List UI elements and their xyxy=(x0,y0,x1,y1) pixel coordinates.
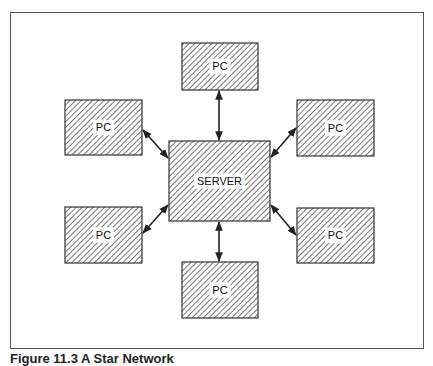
pc-lower-left-box-label: PC xyxy=(96,229,111,241)
link-pc-upper-left-server xyxy=(143,130,168,158)
server-box-label: SERVER xyxy=(197,175,242,187)
pc-bottom-box: PC xyxy=(182,262,258,318)
pc-upper-right-box-label: PC xyxy=(328,122,343,134)
server-box: SERVER xyxy=(169,141,270,221)
network-nodes: SERVERPCPCPCPCPCPC xyxy=(65,43,374,318)
link-pc-lower-right-server xyxy=(271,205,296,235)
pc-lower-left-box: PC xyxy=(65,207,142,263)
pc-lower-right-box-label: PC xyxy=(328,229,343,241)
pc-bottom-box-label: PC xyxy=(212,284,227,296)
link-pc-lower-left-server xyxy=(143,205,168,233)
figure-caption: Figure 11.3 A Star Network xyxy=(10,352,174,365)
pc-top-box: PC xyxy=(182,43,258,90)
pc-upper-left-box: PC xyxy=(65,100,142,155)
pc-top-box-label: PC xyxy=(212,60,227,72)
pc-upper-left-box-label: PC xyxy=(96,121,111,133)
link-pc-upper-right-server xyxy=(271,128,296,157)
pc-upper-right-box: PC xyxy=(297,100,374,156)
pc-lower-right-box: PC xyxy=(297,208,374,263)
